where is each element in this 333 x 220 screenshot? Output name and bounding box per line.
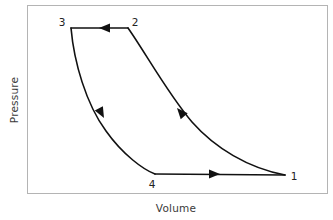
state-label-3: 3 [59,16,66,28]
state-label-2: 2 [132,16,139,28]
path-4-to-1 [155,174,285,175]
y-axis-title: Pressure [8,77,20,123]
plot-frame [28,6,328,194]
state-label-1: 1 [291,170,298,182]
pv-diagram-figure: 3 2 4 1 Pressure Volume [0,0,333,220]
x-axis-title: Volume [156,202,196,214]
state-label-4: 4 [149,178,156,190]
